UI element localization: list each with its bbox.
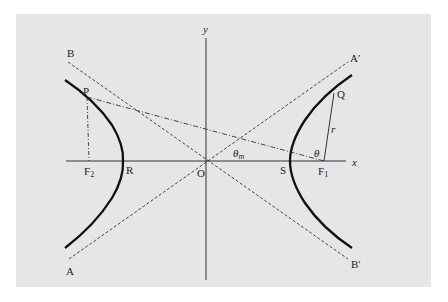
label-p: P [83,85,89,97]
label-b: B [67,47,74,59]
label-theta-m: θm [233,147,244,161]
label-r-length: r [331,123,336,135]
label-s: S [280,164,286,176]
hyperbola-diagram: y x O B A′ A B′ P Q R S F2 F1 r θ θm [0,0,448,302]
line-p-f2 [87,97,89,161]
label-r-point: R [126,164,134,176]
left-hyperbola-branch [65,80,123,248]
label-b-prime: B′ [351,258,361,270]
label-f1: F1 [318,165,328,179]
label-theta: θ [314,147,320,159]
label-o: O [197,167,205,179]
label-y: y [202,23,208,35]
label-a-prime: A′ [350,52,360,64]
label-q: Q [337,88,345,100]
label-f2: F2 [84,165,94,179]
label-x: x [351,156,357,168]
label-a: A [66,265,74,277]
